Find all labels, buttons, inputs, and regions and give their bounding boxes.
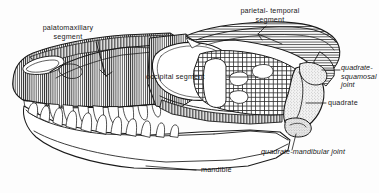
label-parietal-temporal-segment-line2: segment [224, 16, 316, 25]
label-quadrate-squamosal-joint-line3: joint [341, 81, 377, 90]
label-quadrate: quadrate [328, 99, 358, 108]
label-parietal-temporal-segment: parietal- temporal segment [224, 7, 316, 24]
label-quadrate-squamosal-joint: quadrate- squamosal joint [341, 64, 377, 90]
label-palatomaxillary-segment: palatomaxillary segment [26, 24, 110, 41]
label-occipital-segment: occipital segment [146, 73, 205, 82]
skull-diagram-figure: palatomaxillary segment parietal- tempor… [0, 0, 379, 193]
label-quadrate-mandibular-joint: quadrate-mandibular joint [261, 148, 345, 157]
label-mandible: mandible [201, 166, 232, 175]
label-palatomaxillary-segment-line2: segment [26, 33, 110, 42]
